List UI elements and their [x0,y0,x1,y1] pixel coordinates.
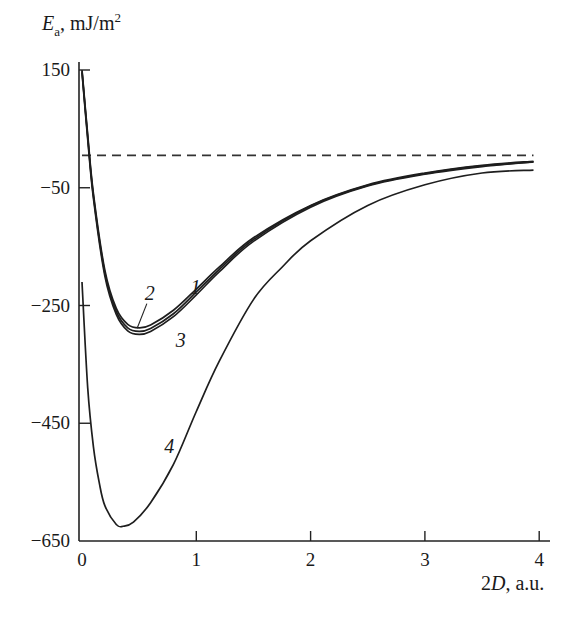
y-tick-label: 150 [42,59,71,80]
curve-label-1: 1 [191,276,201,298]
curve-label-4: 4 [164,435,174,457]
x-tick-label: 2 [306,549,316,570]
curve-2-leader-line [137,304,147,329]
x-tick-label: 0 [77,549,87,570]
energy-vs-distance-chart: Ea, mJ/m2 150−50−250−450−650 01234 2D, a… [0,0,583,623]
y-tick-label: −650 [31,530,70,551]
y-tick-label: −50 [40,177,70,198]
y-axis-title: Ea, mJ/m2 [41,10,121,39]
curve-4 [82,170,533,527]
x-axis-title: 2D, a.u. [481,572,544,594]
x-tick-label: 4 [534,549,544,570]
y-tick-label: −250 [31,295,70,316]
x-ticks: 01234 [77,531,544,570]
curve-label-2: 2 [145,282,155,304]
y-ticks: 150−50−250−450−650 [31,59,90,551]
curve-labels: 1234 [137,276,200,457]
curve-label-3: 3 [175,329,186,351]
x-tick-label: 3 [420,549,430,570]
x-tick-label: 1 [192,549,202,570]
y-tick-label: −450 [31,412,70,433]
